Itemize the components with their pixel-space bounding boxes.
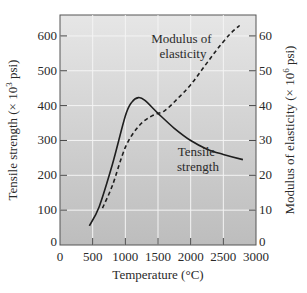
- y-tick-label: 100: [38, 202, 58, 217]
- y-tick-label: 300: [38, 132, 58, 147]
- y-tick-label: 600: [38, 28, 58, 43]
- y-tick-label: 0: [51, 234, 58, 249]
- y2-tick-label: 30: [259, 132, 272, 147]
- y2-tick-label: 10: [259, 202, 272, 217]
- y2-tick-label: 50: [259, 63, 272, 78]
- x-axis-title: Temperature (°C): [112, 267, 203, 282]
- x-tick-label: 1000: [112, 249, 138, 264]
- y2-tick-label: 20: [259, 167, 272, 182]
- y-tick-label: 400: [38, 98, 58, 113]
- chart: 0500100015002000250030000100200300400500…: [0, 0, 307, 293]
- x-tick-label: 2500: [210, 249, 236, 264]
- y-tick-label: 500: [38, 63, 58, 78]
- y-axis-title: Tensile strength (× 103 psi): [4, 60, 20, 201]
- x-tick-label: 500: [83, 249, 103, 264]
- y2-tick-label: 0: [259, 234, 266, 249]
- y-tick-label: 200: [38, 167, 58, 182]
- modulus-annotation: Modulus of elasticity: [151, 31, 215, 61]
- y2-axis-title: Modulus of elasticity (× 106 psi): [281, 46, 297, 215]
- x-tick-label: 1500: [145, 249, 171, 264]
- x-tick-label: 2000: [178, 249, 204, 264]
- y2-tick-label: 40: [259, 98, 272, 113]
- tensile-annotation: Tensile strength: [177, 144, 219, 174]
- x-tick-label: 3000: [243, 249, 269, 264]
- x-tick-label: 0: [57, 249, 64, 264]
- y2-tick-label: 60: [259, 28, 272, 43]
